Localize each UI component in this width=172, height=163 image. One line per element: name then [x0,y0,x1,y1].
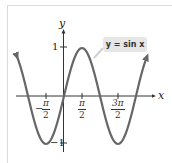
function-label-callout: y = sin x [103,37,147,52]
function-label-text: y = sin x [106,40,145,49]
x-axis-label: x [158,90,164,101]
y-tick-neg-one: −1 [50,138,65,148]
tick-denominator: 2 [43,110,49,120]
x-tick-neg-half-pi: π 2 [42,99,50,120]
x-tick-half-pi: π 2 [78,99,86,120]
tick-denominator: 2 [115,110,121,120]
y-tick-one: 1 [52,42,58,52]
tick-numerator: π [78,99,86,110]
x-tick-three-half-pi: 3π 2 [111,99,125,120]
tick-numerator: π [42,99,50,110]
tick-denominator: 2 [79,110,85,120]
tick-numerator: 3π [111,99,125,110]
y-axis-label: y [59,18,65,29]
sine-graph [0,0,172,163]
